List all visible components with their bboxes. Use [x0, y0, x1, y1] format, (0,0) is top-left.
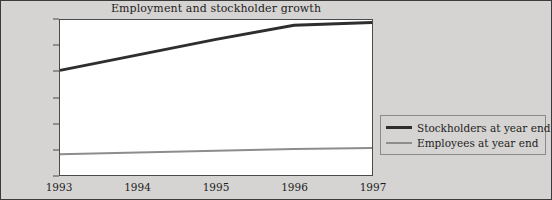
legend-label: Stockholders at year end [417, 122, 550, 134]
chart-title: Employment and stockholder growth [59, 2, 373, 15]
x-axis-tick-label: 1996 [281, 181, 308, 193]
x-axis-tick-label: 1994 [124, 181, 151, 193]
thick-line-swatch-icon [386, 126, 412, 129]
thin-line-swatch-icon [386, 142, 412, 144]
plot-inner [60, 20, 372, 175]
series-line [60, 23, 372, 71]
x-axis-tick-label: 1995 [203, 181, 230, 193]
legend-item-employees: Employees at year end [386, 135, 540, 150]
legend-item-stockholders: Stockholders at year end [386, 120, 540, 135]
plot-area [59, 19, 373, 176]
chart-figure: Employment and stockholder growth 0100,0… [0, 0, 552, 200]
chart-legend: Stockholders at year end Employees at ye… [380, 115, 546, 155]
x-axis-tick-label: 1993 [46, 181, 73, 193]
x-axis-tick-label: 1997 [360, 181, 387, 193]
legend-label: Employees at year end [417, 137, 538, 149]
series-layer [60, 20, 372, 175]
series-line [60, 148, 372, 154]
